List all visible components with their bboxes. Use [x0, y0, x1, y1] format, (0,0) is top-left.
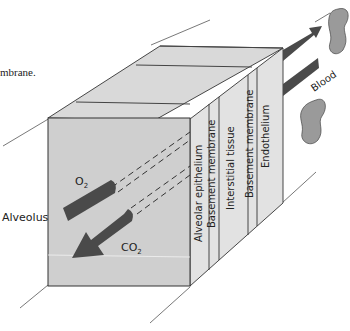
- blood-arrow-out: [283, 26, 322, 61]
- layer-label-interstitial-tissue: Interstitial tissue: [225, 126, 236, 210]
- rbc-icon: [329, 9, 349, 54]
- layer-label-basement-membrane-1: Basement membrane: [206, 120, 217, 228]
- layer-label-basement-membrane-2: Basement membrane: [244, 90, 255, 198]
- layer-label-endothelium: Endothelium: [260, 105, 271, 168]
- membrane-diagram: O2 CO2 Alveolus Alveolar epithelium Base…: [0, 0, 350, 331]
- alveolus-label: Alveolus: [2, 211, 49, 224]
- block-front-face: [48, 118, 190, 286]
- layer-label-alveolar-epithelium: Alveolar epithelium: [193, 145, 204, 242]
- rbc-icon: [301, 99, 326, 144]
